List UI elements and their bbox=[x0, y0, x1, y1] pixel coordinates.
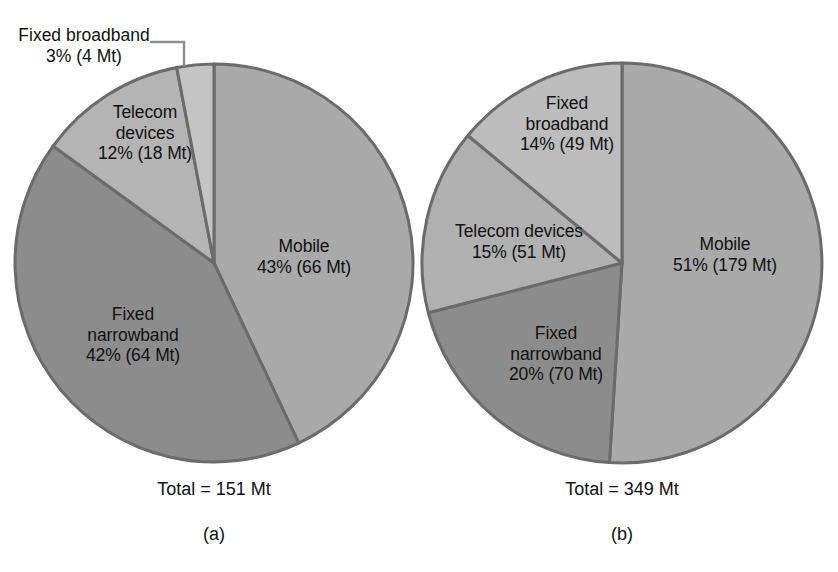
slice-label-b-mobile-line-1: 51% (179 Mt) bbox=[645, 255, 805, 276]
slice-label-b-fixed-broadband: Fixed broadband 14% (49 Mt) bbox=[487, 93, 647, 155]
slice-label-b-mobile-line-0: Mobile bbox=[645, 234, 805, 255]
slice-label-a-fixed-broadband: Fixed broadband 3% (4 Mt) bbox=[18, 25, 150, 66]
slice-label-a-mobile: Mobile 43% (66 Mt) bbox=[234, 236, 374, 277]
slice-label-b-fixed-narrowband: Fixed narrowband 20% (70 Mt) bbox=[476, 323, 636, 385]
slice-label-a-mobile-line-0: Mobile bbox=[234, 236, 374, 257]
slice-label-a-fixed-broadband-line-0: Fixed broadband bbox=[18, 25, 150, 46]
slice-label-b-fixed-broadband-line-2: 14% (49 Mt) bbox=[487, 134, 647, 155]
slice-label-a-fixed-narrowband: Fixed narrowband 42% (64 Mt) bbox=[53, 304, 213, 366]
slice-label-a-fixed-narrowband-line-2: 42% (64 Mt) bbox=[53, 345, 213, 366]
slice-label-b-fixed-narrowband-line-1: narrowband bbox=[476, 344, 636, 365]
slice-label-b-fixed-broadband-line-1: broadband bbox=[487, 114, 647, 135]
figure-root: Mobile 43% (66 Mt) Fixed narrowband 42% … bbox=[0, 0, 838, 572]
callout-leader-line-fixed-broadband bbox=[150, 42, 184, 66]
slice-label-a-telecom-devices-line-2: 12% (18 Mt) bbox=[70, 143, 220, 164]
chart-b-caption: (b) bbox=[572, 524, 672, 545]
slice-label-a-fixed-narrowband-line-1: narrowband bbox=[53, 325, 213, 346]
slice-label-b-fixed-narrowband-line-2: 20% (70 Mt) bbox=[476, 364, 636, 385]
chart-a-total: Total = 151 Mt bbox=[114, 479, 314, 500]
slice-label-a-fixed-narrowband-line-0: Fixed bbox=[53, 304, 213, 325]
slice-label-b-telecom-devices: Telecom devices 15% (51 Mt) bbox=[429, 221, 609, 262]
slice-label-a-telecom-devices-line-1: devices bbox=[70, 123, 220, 144]
slice-label-b-telecom-devices-line-1: 15% (51 Mt) bbox=[429, 242, 609, 263]
slice-label-a-mobile-line-1: 43% (66 Mt) bbox=[234, 257, 374, 278]
slice-label-a-telecom-devices-line-0: Telecom bbox=[70, 102, 220, 123]
slice-label-a-fixed-broadband-line-1: 3% (4 Mt) bbox=[18, 46, 150, 67]
slice-label-b-mobile: Mobile 51% (179 Mt) bbox=[645, 234, 805, 275]
slice-label-b-telecom-devices-line-0: Telecom devices bbox=[429, 221, 609, 242]
chart-b-total: Total = 349 Mt bbox=[522, 479, 722, 500]
pie-chart-b: Mobile 51% (179 Mt) Fixed narrowband 20%… bbox=[419, 0, 838, 572]
chart-a-caption: (a) bbox=[164, 524, 264, 545]
slice-label-b-fixed-narrowband-line-0: Fixed bbox=[476, 323, 636, 344]
pie-chart-a: Mobile 43% (66 Mt) Fixed narrowband 42% … bbox=[0, 0, 419, 572]
slice-label-b-fixed-broadband-line-0: Fixed bbox=[487, 93, 647, 114]
slice-label-a-telecom-devices: Telecom devices 12% (18 Mt) bbox=[70, 102, 220, 164]
